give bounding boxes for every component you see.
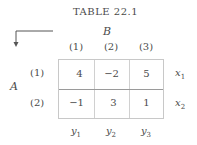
row-variable: x2	[175, 97, 185, 111]
row-divider	[59, 89, 163, 90]
row-header: (1)	[30, 67, 44, 78]
matrix-cell: 3	[96, 97, 131, 108]
matrix-cell: −1	[59, 97, 94, 108]
column-header: (3)	[129, 41, 163, 52]
matrix-cell: −2	[94, 68, 129, 79]
matrix-cell: 5	[129, 68, 164, 79]
column-variable: y1	[59, 125, 93, 139]
column-variable: y3	[129, 125, 163, 139]
row-header: (2)	[30, 97, 44, 108]
player-b-label: B	[103, 25, 111, 38]
row-variable: x1	[175, 67, 185, 81]
column-variable: y2	[94, 125, 128, 139]
payoff-matrix: 4 −2 5 −1 3 1	[58, 59, 164, 119]
player-a-label: A	[10, 80, 18, 93]
column-header: (1)	[59, 41, 93, 52]
matrix-cell: 1	[129, 97, 164, 108]
matrix-cell: 4	[62, 68, 97, 79]
column-header: (2)	[94, 41, 128, 52]
